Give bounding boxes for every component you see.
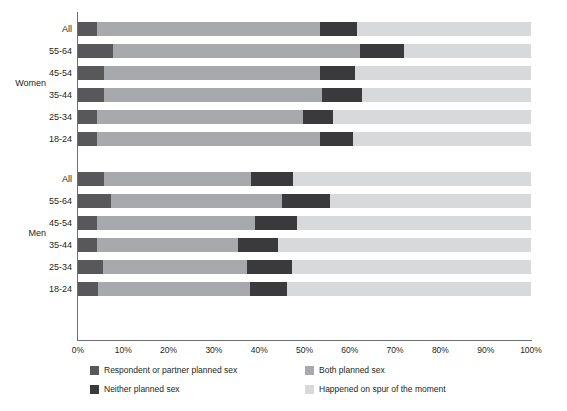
bar-segment [320,132,353,146]
bar-segment [320,22,357,36]
bar-segment [78,132,97,146]
y-axis-category-label: 25-34 [0,110,72,124]
bar-segment [282,194,330,208]
x-axis-tick-label: 90% [477,345,494,355]
x-axis-tick-label: 10% [115,345,132,355]
bar-segment [78,44,113,58]
bar-segment [78,172,104,186]
legend-item[interactable]: Both planned sex [305,365,385,375]
bar-row [78,282,531,296]
bar-segment [353,132,531,146]
y-axis-category-label: 18-24 [0,132,72,146]
bar-segment [104,88,322,102]
bar-segment [78,88,104,102]
bar-segment [113,44,360,58]
bar-row [78,22,531,36]
bar-segment [247,260,292,274]
y-axis-category-label: 55-64 [0,44,72,58]
bar-segment [78,216,97,230]
bar-segment [98,282,250,296]
bar-segment [303,110,333,124]
bar-row [78,110,531,124]
bar-segment [103,260,247,274]
bar-segment [355,66,531,80]
bar-segment [97,216,255,230]
bar-segment [322,88,362,102]
bar-segment [330,194,531,208]
bar-segment [292,260,531,274]
bar-row [78,66,531,80]
y-axis-group-label: Women [0,78,46,88]
bar-segment [293,172,531,186]
legend-swatch-icon [305,366,314,375]
bar-segment [78,66,104,80]
legend-swatch-icon [90,385,99,394]
bar-segment [360,44,404,58]
legend-swatch-icon [90,366,99,375]
y-axis-category-label: 18-24 [0,282,72,296]
legend-item[interactable]: Respondent or partner planned sex [90,365,237,375]
x-axis-tick-label: 30% [205,345,222,355]
legend-swatch-icon [305,385,314,394]
bar-segment [255,216,297,230]
legend-label: Respondent or partner planned sex [104,365,237,375]
bar-segment [404,44,531,58]
bar-segment [297,216,531,230]
bar-segment [250,282,287,296]
bar-row [78,238,531,252]
bar-segment [78,110,97,124]
bar-segment [362,88,531,102]
bar-segment [251,172,293,186]
x-axis-tick-label: 60% [341,345,358,355]
legend-item[interactable]: Neither planned sex [90,384,180,394]
x-axis-tick-label: 0% [72,345,84,355]
bar-segment [97,22,320,36]
x-axis-tick-label: 20% [160,345,177,355]
bar-segment [78,260,103,274]
y-axis-category-label: 25-34 [0,260,72,274]
y-axis-category-label: All [0,172,72,186]
bar-segment [111,194,282,208]
y-axis-category-label: 55-64 [0,194,72,208]
bar-segment [97,238,238,252]
bar-row [78,132,531,146]
bar-segment [78,282,98,296]
bar-row [78,194,531,208]
x-axis-tick-label: 80% [432,345,449,355]
bar-row [78,260,531,274]
y-axis-category-label: All [0,22,72,36]
x-axis-tick-label: 100% [520,345,542,355]
bar-segment [333,110,531,124]
y-axis-group-label: Men [0,228,46,238]
gridline [531,12,532,340]
bar-segment [97,110,303,124]
y-axis-category-label: 35-44 [0,238,72,252]
legend-item[interactable]: Happened on spur of the moment [305,384,446,394]
bar-segment [238,238,278,252]
bar-segment [104,172,251,186]
y-axis-category-label: 35-44 [0,88,72,102]
plot-area [78,12,531,340]
stacked-bar-chart: All55-6445-5435-4425-3418-24WomenAll55-6… [0,0,567,411]
x-axis-tick-label: 70% [387,345,404,355]
bar-row [78,216,531,230]
x-axis-tick-label: 50% [296,345,313,355]
bar-segment [278,238,531,252]
bar-segment [78,194,111,208]
bar-segment [357,22,531,36]
bar-segment [97,132,320,146]
bar-row [78,88,531,102]
bar-segment [287,282,531,296]
bar-row [78,44,531,58]
x-axis-line [77,340,532,341]
legend-label: Neither planned sex [104,384,180,394]
bar-segment [320,66,355,80]
bar-segment [104,66,320,80]
legend-label: Both planned sex [319,365,385,375]
legend-label: Happened on spur of the moment [319,384,446,394]
bar-row [78,172,531,186]
x-axis-tick-label: 40% [251,345,268,355]
bar-segment [78,238,97,252]
bar-segment [78,22,97,36]
